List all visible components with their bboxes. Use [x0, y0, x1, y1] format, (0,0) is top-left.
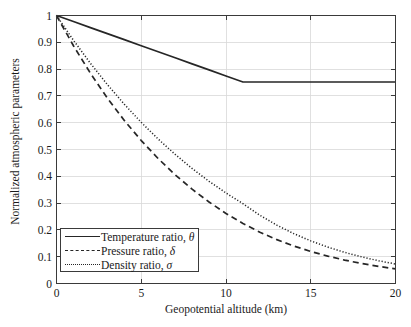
legend-line-sample-dotted-icon: [64, 259, 101, 271]
legend-item-pressure-ratio: Pressure ratio, δ: [64, 244, 198, 258]
legend-line-sample-dashed-icon: [64, 245, 101, 257]
x-tick-label: 10: [206, 286, 246, 300]
legend-label-pressure-ratio: Pressure ratio, δ: [101, 245, 175, 257]
x-tick-label: 5: [121, 286, 161, 300]
legend-line-sample-solid-icon: [64, 231, 101, 243]
x-tick-label: 20: [376, 286, 411, 300]
legend-label-density-ratio: Density ratio, σ: [101, 259, 172, 271]
chart-legend: Temperature ratio, θ Pressure ratio, δ D…: [60, 228, 199, 272]
figure: Normalized atmospheric parameters Geopot…: [0, 0, 411, 327]
legend-item-temperature-ratio: Temperature ratio, θ: [64, 230, 198, 244]
legend-label-temperature-ratio: Temperature ratio, θ: [101, 231, 194, 243]
x-tick-label: 15: [291, 286, 331, 300]
legend-item-density-ratio: Density ratio, σ: [64, 258, 198, 272]
x-axis-tick-labels: 05101520: [0, 0, 411, 327]
x-tick-label: 0: [37, 286, 77, 300]
